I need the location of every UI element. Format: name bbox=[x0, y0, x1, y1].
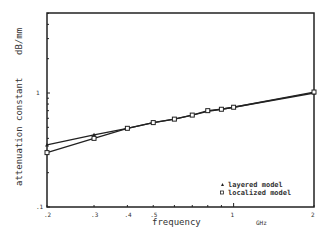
plot-frame bbox=[47, 13, 314, 207]
x-tick-label: .2 bbox=[44, 211, 52, 218]
x-axis-unit: GHz bbox=[256, 219, 267, 226]
series-line bbox=[47, 92, 314, 153]
square-marker-icon bbox=[221, 191, 224, 194]
series-line bbox=[47, 93, 314, 145]
square-marker-icon bbox=[190, 113, 194, 117]
square-marker-icon bbox=[45, 151, 49, 155]
y-tick-label: .1 bbox=[36, 203, 44, 210]
square-marker-icon bbox=[206, 109, 210, 113]
x-tick-label: 2 bbox=[311, 211, 315, 218]
data-series bbox=[45, 90, 316, 155]
legend-layered: layered model bbox=[228, 181, 283, 189]
y-axis-label: attenuation constant bbox=[14, 78, 24, 186]
legend: layered model localized model bbox=[221, 181, 292, 197]
y-tick-label: 1 bbox=[36, 89, 40, 96]
x-tick-label: .4 bbox=[124, 211, 132, 218]
attenuation-chart: .2.3.4.512.11 layered model localized mo… bbox=[0, 0, 321, 235]
square-marker-icon bbox=[312, 90, 316, 94]
legend-localized: localized model bbox=[228, 189, 291, 197]
triangle-marker-icon bbox=[221, 183, 224, 186]
y-axis-unit: dB/mm bbox=[14, 28, 24, 55]
x-tick-label: 1 bbox=[231, 211, 235, 218]
square-marker-icon bbox=[125, 126, 129, 130]
x-axis-label: frequency bbox=[152, 217, 201, 227]
square-marker-icon bbox=[219, 107, 223, 111]
square-marker-icon bbox=[151, 121, 155, 125]
square-marker-icon bbox=[92, 136, 96, 140]
square-marker-icon bbox=[172, 117, 176, 121]
square-marker-icon bbox=[232, 105, 236, 109]
x-tick-label: .3 bbox=[91, 211, 99, 218]
